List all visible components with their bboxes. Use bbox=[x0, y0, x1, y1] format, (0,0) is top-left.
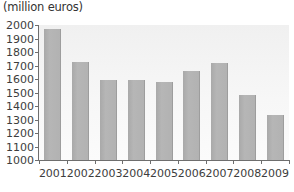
y-tick-label: 1900 bbox=[0, 32, 34, 45]
x-tick-mark bbox=[289, 160, 290, 164]
bar-2001 bbox=[44, 29, 61, 160]
y-tick-mark bbox=[35, 25, 39, 26]
y-tick-label: 1300 bbox=[0, 113, 34, 126]
bar-2003 bbox=[100, 80, 117, 160]
bar-2007 bbox=[211, 63, 228, 160]
y-tick-label: 1700 bbox=[0, 59, 34, 72]
y-tick-label: 1200 bbox=[0, 127, 34, 140]
plot-area: 200120022003200420052006200720082009 bbox=[38, 25, 289, 161]
x-tick-mark bbox=[122, 160, 123, 164]
bar-chart: (million euros) 100011001200130014001500… bbox=[0, 0, 294, 192]
y-tick-mark bbox=[35, 79, 39, 80]
y-tick-label: 1400 bbox=[0, 100, 34, 113]
x-tick-mark bbox=[67, 160, 68, 164]
x-tick-label-2001: 2001 bbox=[39, 167, 67, 180]
x-tick-mark bbox=[95, 160, 96, 164]
y-tick-mark bbox=[35, 120, 39, 121]
y-tick-label: 1800 bbox=[0, 46, 34, 59]
bar-2009 bbox=[267, 115, 284, 160]
y-tick-label: 1600 bbox=[0, 73, 34, 86]
x-tick-label-2008: 2008 bbox=[233, 167, 261, 180]
x-tick-label-2003: 2003 bbox=[94, 167, 122, 180]
y-tick-mark bbox=[35, 133, 39, 134]
x-tick-label-2009: 2009 bbox=[261, 167, 289, 180]
y-tick-label: 1100 bbox=[0, 140, 34, 153]
x-tick-mark bbox=[233, 160, 234, 164]
x-tick-label-2007: 2007 bbox=[206, 167, 234, 180]
x-tick-label-2004: 2004 bbox=[122, 167, 150, 180]
x-tick-mark bbox=[261, 160, 262, 164]
bar-2002 bbox=[72, 62, 89, 160]
y-tick-mark bbox=[35, 52, 39, 53]
bar-2005 bbox=[156, 82, 173, 160]
y-tick-label: 1000 bbox=[0, 154, 34, 167]
x-tick-label-2005: 2005 bbox=[150, 167, 178, 180]
y-tick-mark bbox=[35, 39, 39, 40]
x-tick-label-2002: 2002 bbox=[67, 167, 95, 180]
x-tick-mark bbox=[150, 160, 151, 164]
x-tick-mark bbox=[39, 160, 40, 164]
x-tick-mark bbox=[206, 160, 207, 164]
y-tick-mark bbox=[35, 106, 39, 107]
y-tick-label: 1500 bbox=[0, 86, 34, 99]
bar-2006 bbox=[183, 71, 200, 160]
bar-2004 bbox=[128, 80, 145, 160]
chart-title: (million euros) bbox=[3, 0, 83, 14]
y-tick-label: 2000 bbox=[0, 19, 34, 32]
y-tick-mark bbox=[35, 66, 39, 67]
x-tick-label-2006: 2006 bbox=[178, 167, 206, 180]
x-tick-mark bbox=[178, 160, 179, 164]
y-tick-mark bbox=[35, 93, 39, 94]
y-tick-mark bbox=[35, 147, 39, 148]
bar-2008 bbox=[239, 95, 256, 160]
